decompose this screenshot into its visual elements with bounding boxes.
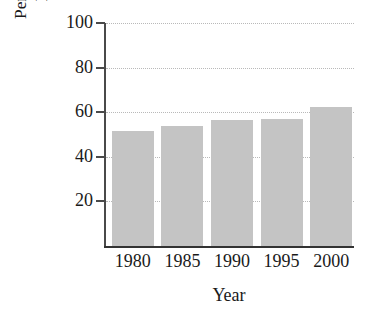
bar (161, 126, 203, 246)
x-axis-tick-label: 1995 (264, 251, 300, 272)
x-axis-tick-label: 2000 (313, 251, 349, 272)
y-axis-tick-mark (96, 200, 105, 202)
x-axis-tick-labels: 19801985199019952000 (104, 251, 356, 277)
bar (310, 107, 352, 246)
y-axis-tick-mark (96, 111, 105, 113)
y-axis-tick-mark (96, 67, 105, 69)
bars-group (106, 23, 354, 246)
y-axis-tick-label: 100 (66, 12, 93, 33)
y-axis-tick-label: 80 (75, 57, 93, 78)
bar (261, 119, 303, 246)
x-axis-title: Year (104, 285, 354, 306)
bar (112, 131, 154, 246)
y-axis-tick-label: 60 (75, 101, 93, 122)
y-axis-tick-label: 40 (75, 146, 93, 167)
y-axis-title: Percentage in the Labor Force (2, 0, 60, 74)
plot-area: 20406080100 19801985199019952000 (104, 23, 354, 248)
bar (211, 120, 253, 246)
y-axis-title-line-2: Labor Force (31, 0, 52, 2)
x-axis-line (104, 246, 354, 248)
y-axis-title-line-1: Percentage in the (10, 0, 31, 19)
y-axis-tick-mark (96, 22, 105, 24)
y-axis-tick-mark (96, 156, 105, 158)
x-axis-tick-label: 1985 (164, 251, 200, 272)
x-axis-tick-label: 1980 (115, 251, 151, 272)
x-axis-tick-label: 1990 (214, 251, 250, 272)
y-axis-tick-label: 20 (75, 190, 93, 211)
bar-chart-figure: Percentage in the Labor Force 2040608010… (0, 0, 370, 321)
